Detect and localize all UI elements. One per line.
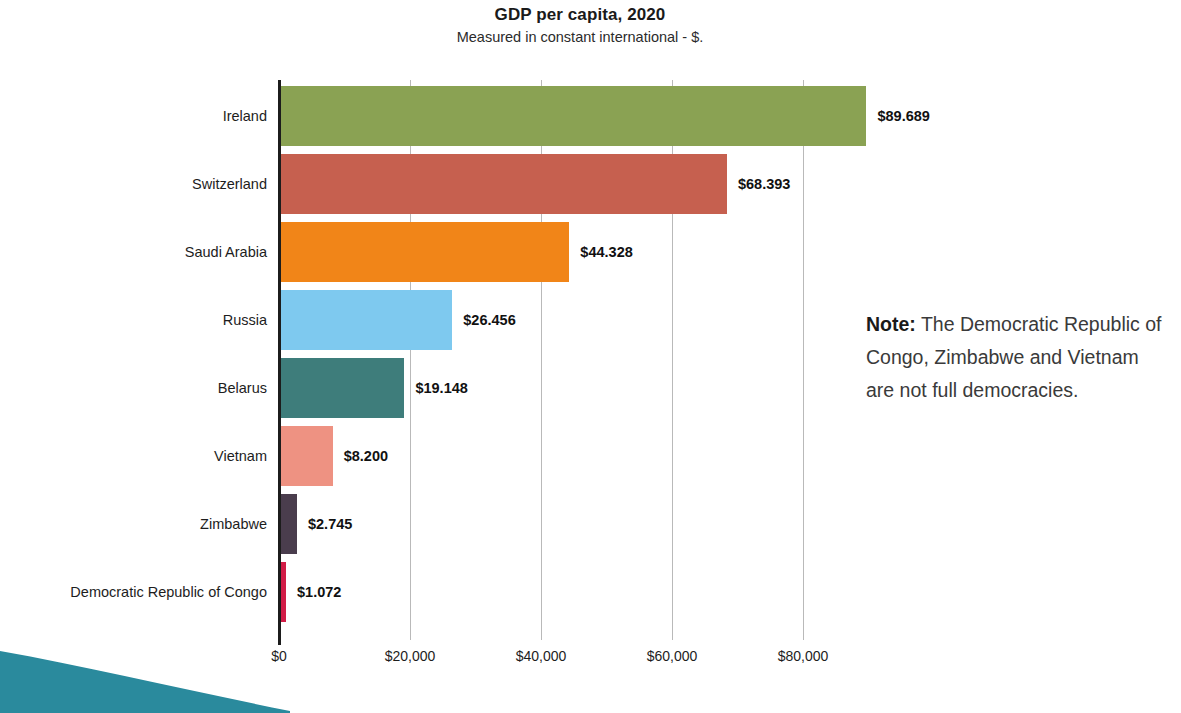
bar-value-label: $44.328 (580, 244, 632, 260)
category-label: Democratic Republic of Congo (70, 584, 267, 600)
category-label: Vietnam (214, 448, 267, 464)
bar-row: Zimbabwe$2.745 (0, 490, 1181, 558)
bar-value-label: $1.072 (297, 584, 341, 600)
bar (279, 494, 297, 554)
note-label: Note: (866, 313, 916, 335)
bar (279, 358, 404, 418)
bar-row: Ireland$89.689 (0, 82, 1181, 150)
x-tick-label: $80,000 (778, 648, 829, 664)
category-label: Ireland (223, 108, 267, 124)
y-axis-line (278, 80, 281, 645)
bar-value-label: $89.689 (877, 108, 929, 124)
bar (279, 154, 727, 214)
bar (279, 86, 866, 146)
x-tick-label: $20,000 (385, 648, 436, 664)
bar-value-label: $2.745 (308, 516, 352, 532)
bar-row: Vietnam$8.200 (0, 422, 1181, 490)
note-callout: Note: The Democratic Republic of Congo, … (866, 308, 1166, 407)
bar (279, 222, 569, 282)
bar-value-label: $8.200 (344, 448, 388, 464)
bar-row: Democratic Republic of Congo$1.072 (0, 558, 1181, 626)
x-tick-label: $60,000 (647, 648, 698, 664)
infographic-root: GDP per capita, 2020 Measured in constan… (0, 0, 1181, 713)
bar-value-label: $26.456 (463, 312, 515, 328)
category-label: Saudi Arabia (185, 244, 267, 260)
bar-row: Saudi Arabia$44.328 (0, 218, 1181, 286)
x-tick-label: $40,000 (516, 648, 567, 664)
bar-value-label: $19.148 (415, 380, 467, 396)
category-label: Russia (223, 312, 267, 328)
x-tick-label: $0 (271, 648, 287, 664)
category-label: Belarus (218, 380, 267, 396)
category-label: Zimbabwe (200, 516, 267, 532)
bar (279, 426, 333, 486)
bar-row: Switzerland$68.393 (0, 150, 1181, 218)
bar (279, 290, 452, 350)
category-label: Switzerland (192, 176, 267, 192)
bar-value-label: $68.393 (738, 176, 790, 192)
